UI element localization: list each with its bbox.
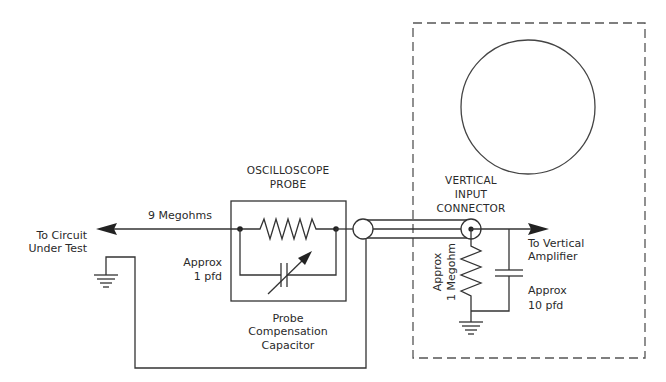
label-probe-comp-line2: Compensation (248, 325, 327, 338)
label-connector-line2: INPUT (455, 188, 488, 200)
arrow-to-circuit (96, 223, 240, 235)
probe-ground-icon (94, 275, 118, 287)
label-connector-line3: CONNECTOR (436, 202, 505, 214)
probe-box (231, 201, 346, 301)
coax-cable-icon (353, 219, 471, 239)
probe-circuit-diagram: To Circuit Under Test 9 Megohms Approx 1… (0, 0, 666, 382)
label-approx-1megohm-line1: Approx (431, 252, 444, 291)
input-capacitor-icon (471, 229, 523, 311)
crt-screen (461, 40, 595, 174)
input-resistor-icon (461, 229, 481, 322)
label-to-circuit-line1: To Circuit (36, 229, 88, 242)
label-to-vertical-line1: To Vertical (527, 237, 584, 250)
label-probe-comp-line3: Capacitor (262, 339, 315, 352)
label-connector-line1: VERTICAL (445, 174, 497, 186)
label-approx-10pfd-line1: Approx (528, 284, 567, 297)
label-nine-megohms: 9 Megohms (148, 209, 212, 222)
probe-resistor-icon (240, 219, 336, 239)
label-probe-title-line1: OSCILLOSCOPE (247, 164, 330, 176)
label-approx-1pfd-line2: 1 pfd (194, 270, 222, 283)
label-probe-comp-line1: Probe (272, 312, 303, 325)
scope-ground-icon (459, 322, 483, 334)
label-approx-1pfd-line1: Approx (183, 256, 222, 269)
label-approx-10pfd-line2: 10 pfd (528, 299, 563, 312)
label-to-circuit-line2: Under Test (29, 242, 88, 255)
label-to-vertical-line2: Amplifier (528, 250, 578, 263)
variable-capacitor-icon (268, 251, 312, 294)
ground-return-wire (106, 239, 366, 368)
label-probe-title-line2: PROBE (270, 178, 307, 190)
compensation-loop (240, 229, 336, 275)
arrow-to-vertical-amplifier (471, 223, 549, 235)
label-approx-1megohm-line2: 1 Megohm (445, 243, 458, 301)
